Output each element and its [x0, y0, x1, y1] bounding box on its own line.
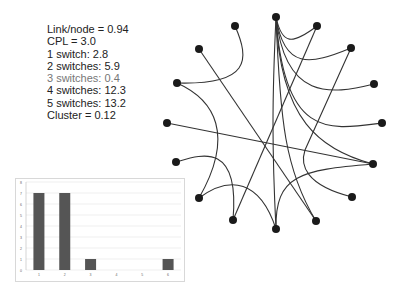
histogram-plot: 012345678123456	[16, 179, 184, 281]
y-tick-label: 4	[20, 225, 22, 229]
node	[370, 80, 378, 88]
node	[348, 193, 356, 201]
y-tick-label: 1	[20, 258, 22, 262]
edge	[199, 185, 276, 229]
edge	[276, 17, 382, 127]
node	[272, 13, 280, 21]
edge	[177, 26, 243, 83]
node	[173, 79, 181, 87]
edge	[276, 17, 317, 39]
node	[378, 119, 386, 127]
node	[195, 194, 203, 202]
x-tick-label: 4	[115, 273, 117, 277]
x-tick-label: 6	[167, 273, 169, 277]
node	[172, 158, 180, 166]
histogram-bar	[59, 193, 70, 270]
edge	[233, 26, 317, 220]
node	[313, 22, 321, 30]
node	[163, 119, 171, 127]
edge	[276, 164, 373, 229]
node	[231, 22, 239, 30]
y-tick-label: 5	[20, 214, 22, 218]
histogram-bar	[33, 193, 44, 270]
x-tick-label: 1	[38, 273, 40, 277]
switch-histogram: 012345678123456	[15, 178, 185, 282]
y-tick-label: 8	[20, 181, 22, 185]
edge	[167, 123, 373, 164]
node	[272, 225, 280, 233]
node	[369, 160, 377, 168]
histogram-bar	[163, 259, 174, 270]
x-tick-label: 2	[64, 273, 66, 277]
y-tick-label: 7	[20, 192, 22, 196]
node	[347, 44, 355, 52]
y-tick-label: 3	[20, 236, 22, 240]
y-tick-label: 2	[20, 247, 22, 251]
x-tick-label: 5	[141, 273, 143, 277]
edge	[303, 48, 352, 197]
node	[195, 45, 203, 53]
node	[229, 216, 237, 224]
x-tick-label: 3	[90, 273, 92, 277]
histogram-bar	[85, 259, 96, 270]
y-tick-label: 0	[20, 269, 22, 273]
node	[312, 217, 320, 225]
y-tick-label: 6	[20, 203, 22, 207]
